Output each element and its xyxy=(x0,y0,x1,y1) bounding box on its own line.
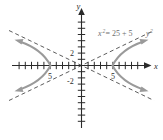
right-branch-lower-arrowhead xyxy=(140,86,149,92)
hyperbola-figure: x y 2 -2 5 5 x 2 = 25 + 5 y 2 xyxy=(0,0,163,140)
plot-canvas: x y 2 -2 5 5 x 2 = 25 + 5 y 2 xyxy=(0,0,163,140)
x-axis-label: x xyxy=(153,61,158,71)
right-branch-upper-arrowhead xyxy=(140,39,149,45)
x-tick-label-positive-5: 5 xyxy=(111,72,115,81)
y-axis-label: y xyxy=(76,1,81,11)
x-axis-arrowhead xyxy=(144,62,152,69)
y-tick-label-negative-2: -2 xyxy=(67,77,74,86)
equation-relation: = 25 + 5 xyxy=(106,29,133,38)
left-branch-lower-arrowhead xyxy=(15,86,24,92)
equation-base-x: x xyxy=(97,29,102,38)
y-axis-group xyxy=(78,8,85,128)
equation-exponent-y: 2 xyxy=(150,28,153,34)
equation-annotation: x 2 = 25 + 5 y 2 xyxy=(97,28,153,39)
left-branch-upper-arrowhead xyxy=(15,39,24,45)
y-tick-label-positive-2: 2 xyxy=(70,49,74,58)
x-tick-label-negative-5: 5 xyxy=(48,72,52,81)
